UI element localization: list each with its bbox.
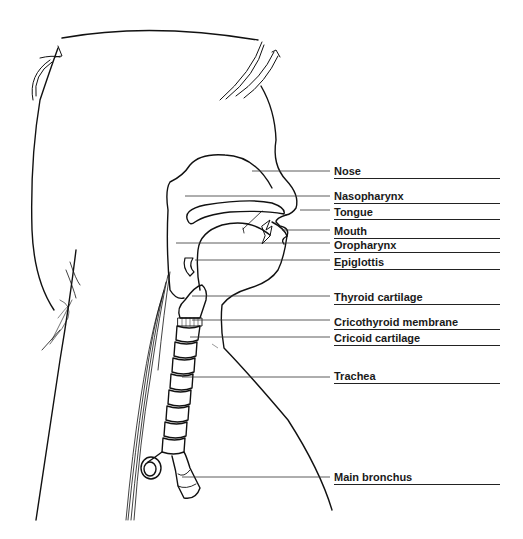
- tongue-outline: [197, 223, 270, 290]
- trachea-rings: [162, 326, 200, 454]
- label-mouth: Mouth: [334, 225, 367, 237]
- label-oropharynx: Oropharynx: [334, 239, 396, 251]
- label-underline-epiglottis: [334, 269, 500, 270]
- label-underline-main-bronchus: [334, 484, 500, 485]
- label-underline-trachea: [334, 383, 500, 384]
- label-thyroid-cartilage: Thyroid cartilage: [334, 291, 423, 303]
- label-underline-nasopharynx: [334, 203, 500, 204]
- label-tongue: Tongue: [334, 206, 373, 218]
- label-underline-nose: [334, 178, 500, 179]
- label-main-bronchus: Main bronchus: [334, 471, 412, 483]
- label-underline-cricoid-cartilage: [334, 345, 500, 346]
- label-underline-tongue: [334, 219, 500, 220]
- chin-neck: [221, 236, 332, 510]
- label-nose: Nose: [334, 165, 361, 177]
- label-underline-oropharynx: [334, 252, 500, 253]
- epiglottis-shape: [184, 258, 194, 276]
- label-underline-cricothyroid-membrane: [334, 329, 500, 330]
- label-nasopharynx: Nasopharynx: [334, 190, 404, 202]
- right-bronchus: [172, 452, 200, 498]
- label-epiglottis: Epiglottis: [334, 256, 384, 268]
- label-cricothyroid-membrane: Cricothyroid membrane: [334, 316, 458, 328]
- thyroid-cartilage-shape: [179, 285, 207, 318]
- spine-column: [126, 272, 170, 520]
- label-trachea: Trachea: [334, 370, 376, 382]
- signature-scribble: [50, 300, 72, 344]
- label-cricoid-cartilage: Cricoid cartilage: [334, 332, 420, 344]
- head-outline: [62, 30, 258, 40]
- label-underline-thyroid-cartilage: [334, 304, 500, 305]
- back-of-neck: [36, 250, 76, 520]
